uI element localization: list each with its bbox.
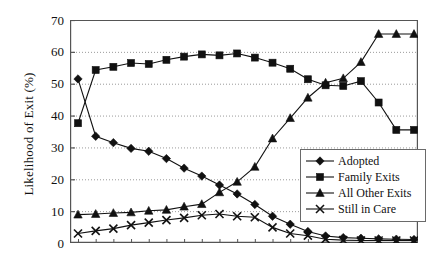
- marker-diamond: [127, 144, 135, 152]
- marker-square: [128, 60, 135, 67]
- marker-diamond: [233, 190, 241, 198]
- marker-square: [163, 56, 170, 63]
- marker-square: [375, 99, 382, 106]
- marker-diamond: [304, 227, 312, 235]
- marker-triangle: [215, 188, 223, 196]
- marker-triangle: [251, 162, 259, 170]
- legend-marker-triangle: [305, 186, 335, 200]
- legend-entry: Adopted: [305, 153, 421, 169]
- chart-legend: AdoptedFamily ExitsAll Other ExitsStill …: [300, 149, 426, 222]
- legend-label: Still in Care: [335, 202, 396, 217]
- marker-diamond: [180, 164, 188, 172]
- marker-square: [92, 67, 99, 74]
- legend-entry: Still in Care: [305, 201, 421, 217]
- y-axis-label: Likelihood of Exit (%): [21, 39, 37, 229]
- marker-diamond: [286, 220, 294, 228]
- legend-marker-x: [305, 202, 335, 216]
- marker-diamond: [374, 235, 382, 243]
- legend-entry: All Other Exits: [305, 185, 421, 201]
- legend-label: Family Exits: [335, 170, 400, 185]
- y-tick-label: 50: [38, 77, 64, 90]
- marker-square: [145, 60, 152, 67]
- marker-diamond: [268, 212, 276, 220]
- marker-diamond: [162, 154, 170, 162]
- y-tick-label: 10: [38, 205, 64, 218]
- marker-square: [287, 65, 294, 72]
- marker-square: [357, 78, 364, 85]
- y-tick-label: 70: [38, 14, 64, 27]
- marker-triangle: [304, 93, 312, 101]
- legend-label: All Other Exits: [335, 186, 411, 201]
- marker-triangle: [357, 58, 365, 66]
- marker-diamond: [392, 235, 400, 243]
- marker-diamond: [74, 75, 82, 83]
- y-tick-label: 60: [38, 45, 64, 58]
- marker-square: [304, 76, 311, 83]
- marker-square: [181, 53, 188, 60]
- legend-marker-square: [305, 170, 335, 184]
- marker-triangle: [198, 200, 206, 208]
- legend-label: Adopted: [335, 154, 379, 169]
- marker-square: [198, 51, 205, 58]
- marker-square: [251, 54, 258, 61]
- marker-diamond: [251, 200, 259, 208]
- marker-square: [317, 174, 324, 181]
- marker-square: [216, 52, 223, 59]
- marker-diamond: [91, 132, 99, 140]
- marker-diamond: [198, 172, 206, 180]
- marker-square: [269, 59, 276, 66]
- marker-square: [411, 126, 418, 133]
- marker-square: [234, 50, 241, 57]
- series-family-exits: [75, 50, 418, 133]
- y-tick-label: 0: [38, 237, 64, 250]
- marker-triangle: [233, 177, 241, 185]
- legend-entry: Family Exits: [305, 169, 421, 185]
- legend-marker-diamond: [305, 154, 335, 168]
- marker-square: [110, 63, 117, 70]
- y-tick-label: 20: [38, 173, 64, 186]
- marker-square: [393, 126, 400, 133]
- marker-square: [75, 120, 82, 127]
- chart-figure: Likelihood of Exit (%) 010203040506070 A…: [0, 0, 436, 268]
- marker-diamond: [316, 157, 324, 165]
- marker-diamond: [109, 138, 117, 146]
- y-tick-label: 30: [38, 141, 64, 154]
- marker-square: [340, 82, 347, 89]
- y-tick-label: 40: [38, 109, 64, 122]
